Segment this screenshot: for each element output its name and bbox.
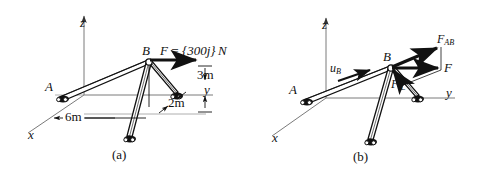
- dimension-label-2m: 2m: [168, 96, 185, 109]
- dimension-label-6m: 6m: [63, 110, 84, 123]
- vector-label-FAB: FAB: [437, 33, 454, 47]
- support-A-b: [301, 99, 313, 106]
- vector-label-uB-sub: B: [336, 67, 341, 76]
- axis-label-z-a: z: [80, 16, 85, 29]
- figure-container: z y x A B F = {300j} N 3m 2m 6m (a): [0, 0, 499, 173]
- member-B-right-foot: [148, 60, 178, 94]
- axis-x-b: [272, 98, 326, 136]
- force-label-F-a: F = {300j} N: [160, 44, 227, 57]
- vector-label-Fperp-sub: ⊥: [398, 82, 406, 92]
- vector-label-F: F: [444, 61, 452, 74]
- vector-label-F-perpendicular: F⊥: [391, 78, 406, 91]
- axis-label-x-a: x: [28, 128, 34, 141]
- point-label-A-b: A: [289, 83, 297, 96]
- support-right-foot-b: [412, 96, 424, 103]
- point-label-B-a: B: [142, 44, 150, 57]
- axis-label-y-b: y: [446, 86, 452, 99]
- axis-label-x-b: x: [272, 131, 278, 144]
- vector-label-uB: uB: [330, 62, 341, 76]
- dimension-label-3m: 3m: [197, 68, 214, 81]
- force-value: {300j}: [182, 43, 216, 58]
- member-B-front-foot-b: [368, 69, 393, 140]
- force-unit: N: [218, 43, 227, 58]
- point-label-B-b: B: [383, 50, 391, 63]
- caption-a: (a): [112, 147, 126, 163]
- vector-FAB: [392, 48, 437, 67]
- vector-label-FAB-sub: AB: [444, 38, 454, 47]
- member-B-front-foot: [127, 63, 151, 137]
- support-front-foot: [124, 136, 136, 143]
- panel-b-drawing: [250, 0, 499, 173]
- axis-label-y-a: y: [204, 83, 210, 96]
- support-A: [57, 96, 69, 103]
- point-label-A-a: A: [45, 80, 53, 93]
- caption-b: (b): [353, 149, 368, 165]
- axis-label-z-b: z: [322, 18, 327, 31]
- panel-b: z y x A B uB FAB F F⊥ (b): [250, 0, 499, 173]
- support-front-foot-b: [365, 139, 377, 146]
- force-symbol: F: [160, 43, 168, 58]
- panel-a: z y x A B F = {300j} N 3m 2m 6m (a): [0, 0, 249, 173]
